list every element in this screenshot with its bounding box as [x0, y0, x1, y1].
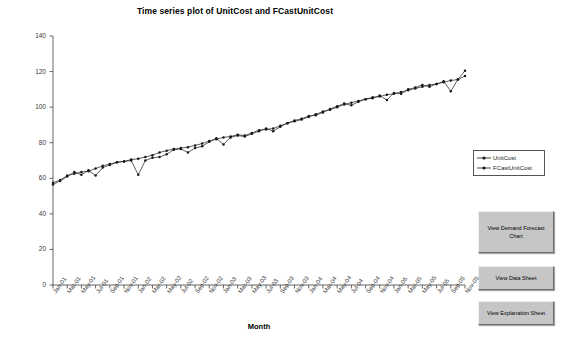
y-axis-tick-label: 0: [24, 281, 46, 288]
chart-legend: UnitCost FCastUnitCost: [473, 150, 545, 176]
chart-container: Time series plot of UnitCost and FCastUn…: [0, 0, 565, 339]
y-axis-tick-label: 20: [24, 245, 46, 252]
x-axis-title: Month: [53, 322, 465, 331]
view-data-sheet-button[interactable]: View Data Sheet: [478, 266, 554, 290]
legend-line-marker-icon: [477, 164, 491, 172]
legend-label: FCastUnitCost: [493, 165, 532, 171]
legend-label: UnitCost: [493, 155, 516, 161]
view-demand-forecast-chart-button[interactable]: View Demand Forecast Chart: [478, 211, 554, 253]
legend-line-marker-icon: [477, 154, 491, 162]
y-axis-tick-label: 40: [24, 210, 46, 217]
legend-item-unitcost: UnitCost: [477, 153, 541, 163]
view-explanation-sheet-button[interactable]: View Explanation Sheet: [478, 301, 554, 325]
y-axis-tick-label: 60: [24, 174, 46, 181]
legend-item-fcastunitcost: FCastUnitCost: [477, 163, 541, 173]
y-axis-tick-label: 140: [24, 32, 46, 39]
y-axis-tick-label: 100: [24, 103, 46, 110]
y-axis-tick-label: 120: [24, 68, 46, 75]
y-axis-tick-label: 80: [24, 139, 46, 146]
